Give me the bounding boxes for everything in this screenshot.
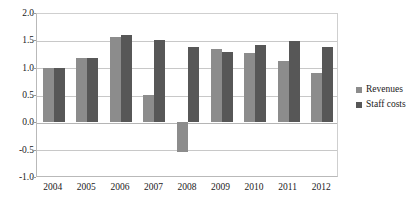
bar-revenues-2006[interactable] [110, 37, 121, 122]
bar-group [177, 13, 199, 177]
bar-revenues-2009[interactable] [211, 49, 222, 123]
bar-staff-costs-2009[interactable] [222, 52, 233, 123]
legend-label: Staff costs [366, 97, 406, 112]
bar-group [211, 13, 233, 177]
bar-revenues-2011[interactable] [278, 61, 289, 122]
y-axis-tick-label: -0.5 [0, 145, 34, 155]
bar-group [278, 13, 300, 177]
bar-staff-costs-2011[interactable] [289, 41, 300, 122]
bar-revenues-2005[interactable] [76, 58, 87, 123]
bar-group [244, 13, 266, 177]
legend-label: Revenues [366, 82, 403, 97]
y-axis-tick-label: 2.0 [0, 8, 34, 18]
y-axis-tick-label: 1.0 [0, 63, 34, 73]
bar-group [143, 13, 165, 177]
y-axis-tick-label: -1.0 [0, 172, 34, 182]
bar-staff-costs-2004[interactable] [54, 68, 65, 123]
bar-staff-costs-2008[interactable] [188, 47, 199, 122]
bar-group [76, 13, 98, 177]
bar-staff-costs-2012[interactable] [322, 47, 333, 122]
y-axis-tick-label: 0.5 [0, 90, 34, 100]
legend-swatch-icon [356, 102, 362, 108]
chart-legend: RevenuesStaff costs [356, 82, 406, 112]
legend-item[interactable]: Revenues [356, 82, 406, 97]
bar-staff-costs-2010[interactable] [255, 45, 266, 123]
bar-revenues-2004[interactable] [43, 68, 54, 123]
bar-revenues-2012[interactable] [311, 73, 322, 122]
bar-revenues-2007[interactable] [143, 95, 154, 122]
bar-staff-costs-2007[interactable] [154, 40, 165, 122]
y-axis-tick-label: 0.0 [0, 117, 34, 127]
y-axis-tick-label: 1.5 [0, 35, 34, 45]
bar-staff-costs-2006[interactable] [121, 35, 132, 122]
bar-staff-costs-2005[interactable] [87, 58, 98, 122]
bar-chart-figure: 2.01.51.00.50.0-0.5-1.0 2004200520062007… [0, 0, 417, 213]
y-axis-tick-mark [32, 177, 36, 178]
bar-group [311, 13, 333, 177]
bar-revenues-2010[interactable] [244, 53, 255, 122]
bar-group [110, 13, 132, 177]
bar-group [43, 13, 65, 177]
legend-item[interactable]: Staff costs [356, 97, 406, 112]
legend-swatch-icon [356, 87, 362, 93]
bar-revenues-2008[interactable] [177, 122, 188, 152]
x-axis-tick-label: 2012 [301, 182, 341, 193]
